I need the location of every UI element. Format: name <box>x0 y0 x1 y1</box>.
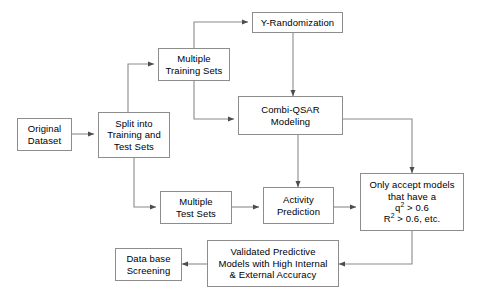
node-y-randomization[interactable]: Y-Randomization <box>252 12 343 33</box>
node-only-accept-models-r2-criterion: R2 > 0.6, etc. <box>359 213 465 224</box>
node-only-accept-models-q2-criterion: q2 > 0.6 <box>359 202 465 213</box>
node-split-label: Split into Training and Test Sets <box>99 118 169 152</box>
node-only-accept-models[interactable]: Only accept models that have a q2 > 0.6 … <box>360 173 464 231</box>
edge-split-to-test-sets <box>134 158 156 207</box>
node-validated-predictive-models[interactable]: Validated Predictive Models with High In… <box>207 240 339 287</box>
node-split-into-training-and-test-sets[interactable]: Split into Training and Test Sets <box>98 112 170 158</box>
node-database-screening[interactable]: Data base Screening <box>115 248 182 281</box>
node-activity-prediction[interactable]: Activity Prediction <box>263 187 334 224</box>
node-original-dataset[interactable]: Original Dataset <box>17 118 72 151</box>
node-only-accept-models-label: Only accept models that have a <box>359 179 465 202</box>
node-multiple-training-sets-label: Multiple Training Sets <box>159 53 229 76</box>
edge-combi-qsar-to-accept-models <box>343 119 412 173</box>
edge-training-sets-to-y-randomization <box>194 22 248 48</box>
node-combi-qsar-modeling[interactable]: Combi-QSAR Modeling <box>238 96 343 135</box>
node-y-randomization-label: Y-Randomization <box>253 17 342 28</box>
edge-accept-models-to-validated-models <box>339 231 412 264</box>
node-combi-qsar-modeling-label: Combi-QSAR Modeling <box>239 104 342 127</box>
node-original-dataset-label: Original Dataset <box>18 123 71 146</box>
node-database-screening-label: Data base Screening <box>116 253 181 276</box>
node-activity-prediction-label: Activity Prediction <box>264 194 333 217</box>
node-multiple-training-sets[interactable]: Multiple Training Sets <box>158 48 230 81</box>
node-validated-predictive-models-label: Validated Predictive Models with High In… <box>208 246 338 280</box>
node-multiple-test-sets-label: Multiple Test Sets <box>161 196 231 219</box>
flowchart-canvas: Original Dataset Split into Training and… <box>0 0 478 304</box>
edge-training-sets-to-combi-qsar <box>194 80 234 119</box>
edge-split-to-training-sets <box>128 64 154 112</box>
node-multiple-test-sets[interactable]: Multiple Test Sets <box>160 191 232 224</box>
